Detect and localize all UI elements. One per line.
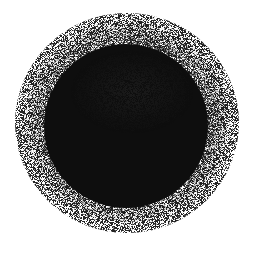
spray-canvas bbox=[0, 0, 253, 255]
spray-blob bbox=[0, 0, 253, 255]
